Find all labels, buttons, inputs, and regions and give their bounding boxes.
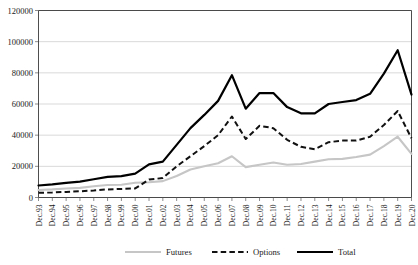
series-line-total [39, 50, 412, 185]
chart-legend: FuturesOptionsTotal [125, 247, 356, 257]
x-axis-tick-label: Dec.16 [352, 204, 361, 226]
x-axis-tick-label: Dec.94 [48, 204, 57, 226]
y-axis-tick-label: 120000 [8, 6, 34, 16]
x-axis-tick-label: Dec.02 [159, 204, 168, 226]
series-line-options [39, 111, 412, 193]
x-axis-tick-label: Dec.98 [104, 204, 113, 226]
x-axis-tick-label: Dec.93 [35, 204, 44, 226]
line-chart: 020000400006000080000100000120000 Dec.93… [0, 0, 418, 265]
y-axis-tick-label: 80000 [12, 68, 33, 78]
x-axis-tick-label: Dec.08 [242, 204, 251, 226]
x-axis-tick-label: Dec.11 [283, 204, 292, 226]
gridlines [39, 11, 412, 198]
legend-label-options: Options [253, 247, 281, 257]
x-axis-tick-label: Dec.99 [117, 204, 126, 226]
x-axis-tick-label: Dec.06 [214, 204, 223, 226]
x-axis-tick-label: Dec.95 [62, 204, 71, 226]
chart-container: 020000400006000080000100000120000 Dec.93… [0, 0, 418, 265]
x-axis-tick-label: Dec.15 [338, 204, 347, 226]
x-axis-tick-label: Dec.96 [76, 204, 85, 226]
series-line-futures [39, 137, 412, 190]
x-axis-tick-label: Dec.12 [297, 204, 306, 226]
data-series [39, 50, 412, 193]
y-axis-tick-label: 40000 [12, 130, 33, 140]
y-axis-tick-label: 20000 [12, 161, 33, 171]
x-axis-tick-label: Dec.01 [145, 204, 154, 226]
x-axis-tick-label: Dec.10 [269, 204, 278, 226]
x-axis-tick-label: Dec.17 [366, 204, 375, 226]
x-axis-tick-label: Dec.09 [256, 204, 265, 226]
x-axis-tick-label: Dec.14 [325, 204, 334, 226]
x-axis-tick-label: Dec.00 [131, 204, 140, 226]
y-axis-tick-labels: 020000400006000080000100000120000 [8, 6, 39, 203]
legend-label-total: Total [338, 247, 356, 257]
y-axis-tick-label: 100000 [8, 37, 34, 47]
legend-label-futures: Futures [166, 247, 192, 257]
x-axis-tick-label: Dec.13 [311, 204, 320, 226]
x-axis-tick-label: Dec.20 [408, 204, 417, 226]
x-axis-tick-label: Dec.19 [394, 204, 403, 226]
y-axis-tick-label: 0 [29, 193, 33, 203]
x-axis-tick-label: Dec.04 [186, 204, 195, 226]
x-axis-tick-label: Dec.05 [200, 204, 209, 226]
x-axis-tick-labels: Dec.93Dec.94Dec.95Dec.96Dec.97Dec.98Dec.… [35, 198, 417, 227]
x-axis-tick-label: Dec.97 [90, 204, 99, 226]
x-axis-tick-label: Dec.18 [380, 204, 389, 226]
x-axis-tick-label: Dec.07 [228, 204, 237, 226]
y-axis-tick-label: 60000 [12, 99, 33, 109]
x-axis-tick-label: Dec.03 [173, 204, 182, 226]
